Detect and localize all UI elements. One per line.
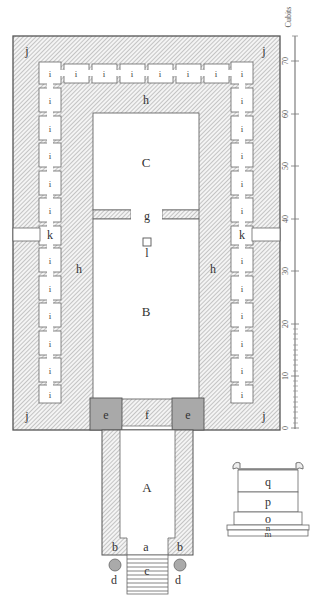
- label-column-right: d: [175, 573, 181, 587]
- svg-text:60: 60: [281, 110, 290, 118]
- label-porch: A: [142, 480, 152, 495]
- label-holy-place: B: [142, 304, 151, 319]
- doorway-threshold: [122, 426, 172, 430]
- side-entry-left: [13, 228, 40, 241]
- label-corner-tr: j: [261, 44, 265, 58]
- label-wall-top: h: [143, 93, 149, 107]
- svg-text:30: 30: [281, 267, 290, 275]
- svg-text:40: 40: [281, 215, 290, 223]
- label-wall-right: h: [210, 262, 216, 276]
- svg-text:q: q: [265, 475, 271, 489]
- label-corner-tl: j: [24, 44, 28, 58]
- svg-text:p: p: [265, 495, 271, 509]
- label-doorway: f: [145, 408, 149, 422]
- svg-text:0: 0: [281, 426, 290, 430]
- svg-text:k: k: [239, 228, 245, 242]
- label-porch-entry: a: [143, 540, 149, 554]
- svg-text:m: m: [264, 529, 271, 539]
- label-column-left: d: [111, 573, 117, 587]
- temple-floor-plan: i i i i i i i i i i i i i k i i i i i i …: [0, 0, 320, 602]
- label-jamb-left: b: [112, 540, 118, 554]
- side-entry-right: [252, 228, 280, 241]
- scale-unit-label: Cubits: [284, 7, 293, 28]
- label-partition-door: g: [144, 209, 150, 223]
- label-jamb-right: b: [177, 540, 183, 554]
- label-pillar-right: e: [185, 408, 190, 422]
- altar-incense-square: [143, 238, 151, 246]
- partition-left: [93, 210, 131, 219]
- scale-bar: 0 10 20 30 40 50 60 70 Cubits: [281, 7, 299, 430]
- inset-altar: q p o n m: [227, 462, 309, 539]
- label-corner-bl: j: [24, 409, 28, 423]
- svg-text:10: 10: [281, 372, 290, 380]
- svg-text:20: 20: [281, 320, 290, 328]
- svg-text:70: 70: [281, 57, 290, 65]
- label-corner-br: j: [261, 409, 265, 423]
- svg-text:k: k: [47, 228, 53, 242]
- label-most-holy: C: [142, 155, 151, 170]
- column-left: [109, 559, 121, 571]
- label-steps: c: [144, 564, 149, 578]
- svg-text:50: 50: [281, 162, 290, 170]
- label-pillar-left: e: [103, 408, 108, 422]
- column-right: [174, 559, 186, 571]
- partition-right: [162, 210, 199, 219]
- label-wall-left: h: [76, 262, 82, 276]
